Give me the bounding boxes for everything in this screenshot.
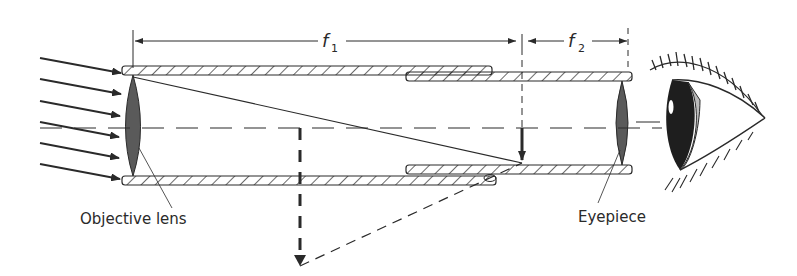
virtual-image xyxy=(294,128,522,266)
chief-ray xyxy=(133,77,522,163)
incoming-rays xyxy=(40,58,121,179)
telescope-diagram: f 1 f 2 xyxy=(0,0,797,276)
eye-illustration xyxy=(650,52,765,192)
f2-label: f xyxy=(568,30,577,51)
eyepiece-lens xyxy=(616,81,628,165)
f1-label: f xyxy=(322,30,331,51)
objective-lens xyxy=(126,75,141,176)
eyepiece-leader xyxy=(598,150,620,203)
dimension-f1: f 1 xyxy=(133,30,516,68)
f1-subscript: 1 xyxy=(331,42,338,55)
dimension-f2: f 2 xyxy=(522,28,628,70)
f2-subscript: 2 xyxy=(578,42,585,55)
objective-lens-label: Objective lens xyxy=(80,210,187,228)
telescope-tube xyxy=(122,66,632,185)
eyepiece-label: Eyepiece xyxy=(578,208,646,226)
